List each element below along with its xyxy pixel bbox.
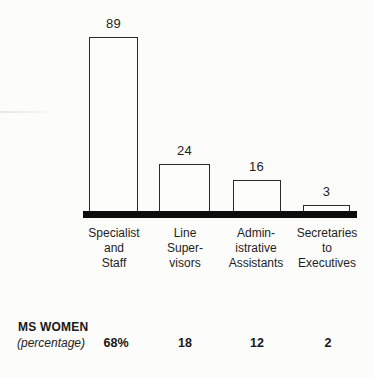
footer-value: 18 (178, 336, 192, 350)
bar-column: 24 (154, 0, 215, 211)
bar-value-label: 16 (249, 159, 264, 174)
footer-value: 68% (103, 336, 128, 350)
bar-chart: 89 24 16 3 (0, 0, 374, 211)
percentage-label: (percentage) (17, 336, 85, 350)
bar-chart-figure: 89 24 16 3 Specialist and Staff Line Sup… (0, 0, 374, 378)
axis-baseline (83, 211, 357, 218)
bar (159, 164, 210, 211)
bar (233, 180, 281, 211)
bar-column: 3 (296, 0, 357, 211)
bar-column: 16 (226, 0, 287, 211)
bar (89, 37, 138, 211)
footer-value: 2 (325, 336, 332, 350)
bar-value-label: 3 (323, 184, 331, 199)
category-label: Secretaries to Executives (282, 226, 372, 271)
bar-column: 89 (83, 0, 144, 211)
bar-value-label: 89 (106, 16, 121, 31)
footer-value: 12 (250, 336, 264, 350)
ms-women-label: MS WOMEN (18, 320, 88, 334)
bar-value-label: 24 (177, 143, 192, 158)
